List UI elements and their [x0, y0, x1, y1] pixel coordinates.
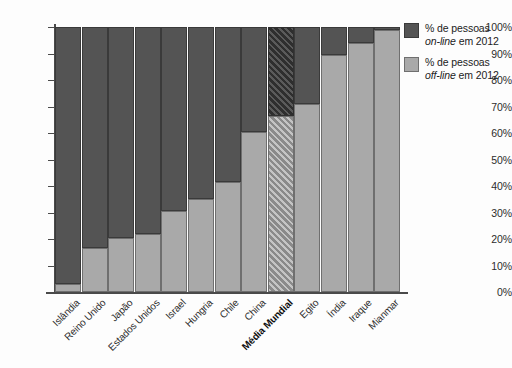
bar-segment-offline[interactable] — [55, 284, 81, 292]
legend-label-emphasis: off-line — [425, 69, 456, 81]
y-tick-mark — [48, 54, 55, 55]
bar-group[interactable] — [82, 27, 108, 292]
bar-segment-offline[interactable] — [241, 132, 267, 292]
bar-group[interactable] — [55, 27, 81, 292]
bar-group[interactable] — [241, 27, 267, 292]
chart-container: 0%10%20%30%40%50%60%70%80%90%100% Islând… — [0, 0, 512, 368]
bar-segment-offline[interactable] — [268, 116, 294, 292]
y-tick-mark — [48, 27, 55, 28]
y-tick-label: 20% — [468, 233, 512, 245]
bar-group[interactable] — [374, 27, 400, 292]
bar-segment-offline[interactable] — [348, 43, 374, 292]
bar-segment-online[interactable] — [348, 27, 374, 43]
bar-segment-offline[interactable] — [188, 199, 214, 292]
bar-group[interactable] — [321, 27, 347, 292]
bar-segment-offline[interactable] — [374, 30, 400, 292]
bar-group[interactable] — [294, 27, 320, 292]
bar-segment-offline[interactable] — [294, 104, 320, 292]
y-tick-label: 70% — [468, 101, 512, 113]
legend-swatch-offline — [404, 57, 419, 72]
legend-label-line1: % de pessoas — [425, 22, 499, 35]
y-tick-mark — [48, 133, 55, 134]
legend-label-emphasis: on-line — [425, 35, 456, 47]
x-axis-label: Índia — [325, 297, 348, 320]
y-tick-mark — [48, 107, 55, 108]
y-tick-mark — [48, 213, 55, 214]
bar-segment-online[interactable] — [374, 27, 400, 30]
y-tick-mark — [48, 292, 55, 293]
x-axis-label: Israel — [163, 297, 187, 321]
y-tick-mark — [48, 160, 55, 161]
bar-segment-online[interactable] — [108, 27, 134, 238]
bar-segment-offline[interactable] — [161, 211, 187, 292]
bar-group[interactable] — [215, 27, 241, 292]
bar-segment-online[interactable] — [215, 27, 241, 182]
y-tick-mark — [48, 266, 55, 267]
x-axis-label: Egito — [298, 297, 321, 320]
bar-group[interactable] — [188, 27, 214, 292]
bar-segment-online[interactable] — [135, 27, 161, 234]
bar-segment-online[interactable] — [188, 27, 214, 199]
bar-group[interactable] — [108, 27, 134, 292]
bar-segment-offline[interactable] — [215, 182, 241, 292]
plot-area — [55, 27, 400, 292]
y-tick-mark — [48, 239, 55, 240]
legend-swatch-online — [404, 23, 419, 38]
y-tick-label: 60% — [468, 127, 512, 139]
bar-segment-offline[interactable] — [321, 55, 347, 292]
y-tick-label: 50% — [468, 154, 512, 166]
x-axis-line — [46, 292, 408, 294]
bar-group[interactable] — [268, 27, 294, 292]
bar-segment-online[interactable] — [268, 27, 294, 116]
y-tick-label: 40% — [468, 180, 512, 192]
legend-item[interactable]: % de pessoasoff-line em 2012 — [404, 56, 510, 81]
legend-label-line1: % de pessoas — [425, 56, 499, 69]
y-tick-mark — [48, 80, 55, 81]
legend-label: % de pessoason-line em 2012 — [425, 22, 499, 47]
bar-segment-online[interactable] — [241, 27, 267, 132]
y-tick-label: 0% — [468, 286, 512, 298]
bar-group[interactable] — [135, 27, 161, 292]
legend-label-line2: on-line em 2012 — [425, 35, 499, 48]
y-tick-mark — [48, 186, 55, 187]
bar-segment-offline[interactable] — [108, 238, 134, 292]
x-axis-label: Hungria — [183, 297, 215, 329]
bar-segment-offline[interactable] — [82, 248, 108, 292]
y-tick-label: 30% — [468, 207, 512, 219]
legend: % de pessoason-line em 2012% de pessoaso… — [404, 22, 510, 90]
bar-group[interactable] — [348, 27, 374, 292]
bar-segment-online[interactable] — [161, 27, 187, 211]
legend-item[interactable]: % de pessoason-line em 2012 — [404, 22, 510, 47]
bar-group[interactable] — [161, 27, 187, 292]
bar-segment-online[interactable] — [294, 27, 320, 104]
x-axis-label: Chile — [218, 297, 241, 320]
y-tick-label: 10% — [468, 260, 512, 272]
legend-label: % de pessoasoff-line em 2012 — [425, 56, 499, 81]
legend-label-line2: off-line em 2012 — [425, 69, 499, 82]
bar-segment-online[interactable] — [82, 27, 108, 248]
bar-segment-online[interactable] — [321, 27, 347, 55]
bar-segment-offline[interactable] — [135, 234, 161, 292]
bar-segment-online[interactable] — [55, 27, 81, 284]
